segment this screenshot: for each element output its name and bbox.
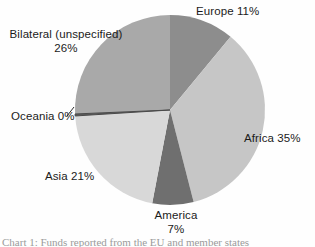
slice-label-america-name: America: [143, 209, 209, 223]
slice-label-bilateral-percent: 26%: [4, 42, 128, 56]
slice-label-bilateral-name: Bilateral (unspecified): [4, 28, 128, 42]
slice-label-bilateral: Bilateral (unspecified) 26%: [4, 28, 128, 55]
slice-label-europe: Europe 11%: [196, 5, 259, 19]
slice-label-africa: Africa 35%: [244, 132, 301, 146]
slice-label-asia: Asia 21%: [45, 170, 94, 184]
chart-caption: Chart 1: Funds reported from the EU and …: [0, 236, 315, 247]
slice-label-america-percent: 7%: [143, 223, 209, 237]
slice-label-oceania: Oceania 0%: [11, 110, 75, 124]
pie-chart: Europe 11% Bilateral (unspecified) 26% O…: [0, 0, 315, 232]
slice-label-america: America 7%: [143, 209, 209, 236]
pie-chart-screenshot: Europe 11% Bilateral (unspecified) 26% O…: [0, 0, 315, 247]
